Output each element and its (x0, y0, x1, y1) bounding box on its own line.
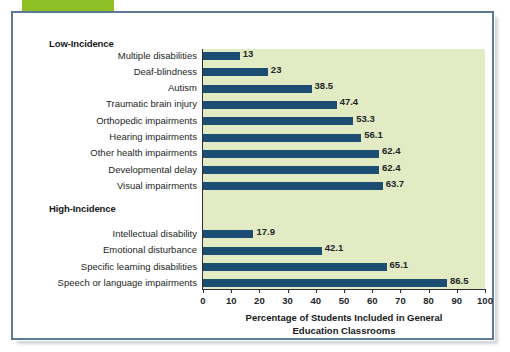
bar-category-label: Deaf-blindness (134, 66, 197, 77)
bar (203, 230, 253, 238)
bar-category-label: Multiple disabilities (118, 50, 197, 61)
x-axis-tick (344, 289, 345, 293)
x-axis-tick-label: 50 (339, 295, 350, 306)
bar (203, 52, 240, 60)
x-axis-tick (400, 289, 401, 293)
bar-value-label: 63.7 (386, 178, 405, 189)
x-axis-title-line-1: Percentage of Students Included in Gener… (194, 311, 494, 324)
bar-value-label: 56.1 (364, 129, 383, 140)
bar-row: Hearing impairments56.1 (203, 131, 485, 147)
bar (203, 166, 379, 174)
x-axis-tick-label: 40 (311, 295, 322, 306)
x-axis-tick (288, 289, 289, 293)
bar-category-label: Specific learning disabilities (81, 261, 197, 272)
bar-row: Multiple disabilities13 (203, 49, 485, 65)
x-axis-tick (316, 289, 317, 293)
bar-row: Deaf-blindness23 (203, 65, 485, 81)
bar-category-label: Other health impairments (90, 147, 197, 158)
bar (203, 247, 322, 255)
x-axis-tick (231, 289, 232, 293)
bar (203, 68, 268, 76)
x-axis-tick-label: 20 (254, 295, 265, 306)
x-axis-tick (485, 289, 486, 293)
bar (203, 85, 312, 93)
bar-value-label: 23 (271, 64, 282, 75)
x-axis-tick (203, 289, 204, 293)
x-axis-tick (457, 289, 458, 293)
bar-row: Emotional disturbance42.1 (203, 244, 485, 260)
bar (203, 134, 361, 142)
x-axis-tick-label: 90 (452, 295, 463, 306)
bar (203, 279, 447, 287)
bar (203, 101, 337, 109)
bar-category-label: Visual impairments (117, 180, 197, 191)
bar-value-label: 62.4 (382, 145, 401, 156)
bar-row: Specific learning disabilities65.1 (203, 260, 485, 276)
bar-value-label: 86.5 (450, 275, 469, 286)
x-axis-tick (372, 289, 373, 293)
bar-category-label: Developmental delay (108, 164, 197, 175)
bar (203, 150, 379, 158)
x-axis-tick-label: 100 (477, 295, 493, 306)
figure-frame: Low-Incidence High-Incidence Multiple di… (11, 11, 494, 340)
x-axis-tick-label: 30 (282, 295, 293, 306)
bar (203, 182, 383, 190)
x-axis-tick (259, 289, 260, 293)
x-axis-title: Percentage of Students Included in Gener… (194, 311, 494, 337)
bar-value-label: 42.1 (325, 242, 344, 253)
bar (203, 117, 353, 125)
bar-value-label: 65.1 (390, 259, 409, 270)
x-axis-tick-label: 10 (226, 295, 237, 306)
bar-row: Orthopedic impairments53.3 (203, 114, 485, 130)
x-axis-tick-label: 60 (367, 295, 378, 306)
bar-row: Other health impairments62.4 (203, 147, 485, 163)
x-axis-tick-label: 80 (423, 295, 434, 306)
x-axis-title-line-2: Education Classrooms (194, 324, 494, 337)
bar-value-label: 17.9 (256, 226, 275, 237)
bar-value-label: 62.4 (382, 162, 401, 173)
bar-row: Visual impairments63.7 (203, 179, 485, 195)
bar-row: Developmental delay62.4 (203, 163, 485, 179)
bar-value-label: 38.5 (315, 80, 334, 91)
x-axis-tick (429, 289, 430, 293)
bar-value-label: 13 (243, 48, 254, 59)
bar-category-label: Hearing impairments (109, 131, 197, 142)
bar-category-label: Orthopedic impairments (96, 115, 197, 126)
bar-category-label: Autism (168, 82, 197, 93)
x-axis-tick-label: 0 (200, 295, 205, 306)
group-heading-low-incidence: Low-Incidence (49, 38, 114, 49)
bar-value-label: 47.4 (340, 96, 359, 107)
figure-page: Low-Incidence High-Incidence Multiple di… (0, 0, 510, 352)
bar-category-label: Speech or language impairments (58, 277, 197, 288)
bar-category-label: Intellectual disability (113, 228, 198, 239)
bar-row: Traumatic brain injury47.4 (203, 98, 485, 114)
bar (203, 263, 387, 271)
group-heading-high-incidence: High-Incidence (49, 203, 116, 214)
bar-category-label: Emotional disturbance (103, 244, 197, 255)
bar-value-label: 53.3 (356, 113, 375, 124)
x-axis-tick-label: 70 (395, 295, 406, 306)
bar-chart-plot-area: Multiple disabilities13Deaf-blindness23A… (203, 49, 485, 289)
bar-category-label: Traumatic brain injury (106, 98, 197, 109)
bar-row: Intellectual disability17.9 (203, 227, 485, 243)
